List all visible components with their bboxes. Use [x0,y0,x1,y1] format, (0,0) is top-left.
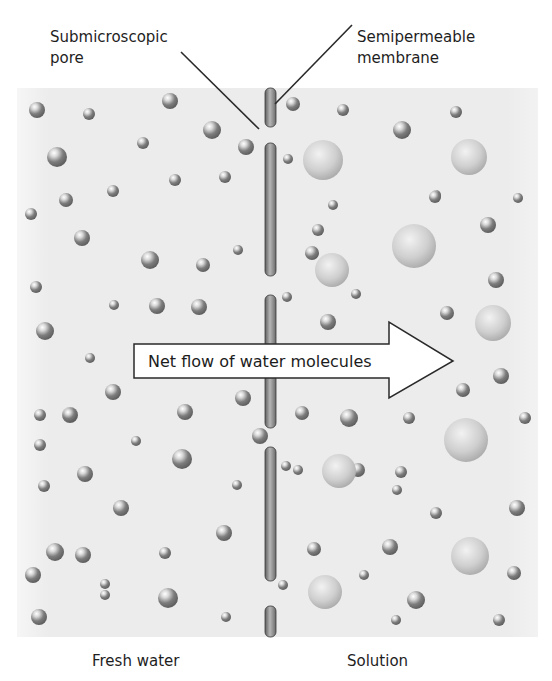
water-molecule [393,121,411,139]
water-molecule [34,439,46,451]
fresh-water-label: Fresh water [92,652,179,670]
water-molecule [38,480,50,492]
water-molecule [100,579,110,589]
water-molecule [307,542,321,556]
water-molecule [105,384,121,400]
water-molecule [109,300,119,310]
water-molecule [25,208,37,220]
solute-molecule [303,140,343,180]
water-molecule [407,591,425,609]
solute-molecule [451,139,487,175]
water-molecule [46,543,64,561]
solute-molecule [308,575,342,609]
water-molecule [131,436,141,446]
water-molecule [305,246,319,260]
water-molecule [232,480,242,490]
water-molecule [159,547,171,559]
water-molecule [278,580,288,590]
water-molecule [513,193,523,203]
water-molecule [293,465,303,475]
water-molecule [221,612,231,622]
water-molecule [430,507,442,519]
water-molecule [137,137,149,149]
water-molecule [47,147,67,167]
osmosis-diagram: Net flow of water molecules [0,0,552,681]
water-molecule [480,217,496,233]
water-molecule [216,525,232,541]
solution-label: Solution [347,652,408,670]
arrow-label: Net flow of water molecules [148,352,372,371]
water-molecule [141,251,159,269]
water-molecule [403,412,415,424]
water-molecule [177,404,193,420]
water-molecule [359,570,369,580]
water-molecule [63,408,77,422]
solute-molecule [451,537,489,575]
water-molecule [282,292,292,302]
water-molecule [328,200,338,210]
solute-molecule [315,253,349,287]
solute-molecule [322,454,356,488]
water-molecule [162,93,178,109]
net-flow-arrow: Net flow of water molecules [134,322,453,398]
water-molecule [36,322,54,340]
water-molecule [493,368,509,384]
solute-molecule [444,418,488,462]
water-molecule [100,590,110,600]
water-molecule [31,609,47,625]
solute-molecule [392,224,436,268]
water-molecule [233,245,243,255]
water-molecule [450,106,462,118]
water-molecule [158,588,178,608]
membrane-leader-line [275,25,352,104]
membrane-segment [265,88,276,127]
water-molecule [196,258,210,272]
water-molecule [382,539,398,555]
water-molecule [113,500,129,516]
water-molecule [509,500,525,516]
water-molecule [75,547,91,563]
water-molecule [169,174,181,186]
water-molecule [235,390,251,406]
water-molecule [85,353,95,363]
water-molecule [392,485,402,495]
water-molecule [283,154,293,164]
water-molecule [238,139,254,155]
water-molecule [295,406,309,420]
water-molecule [391,615,401,625]
water-molecule [488,272,504,288]
water-molecule [493,614,505,626]
water-molecule [149,298,165,314]
water-molecule [440,306,454,320]
water-molecule [29,102,45,118]
water-molecule [281,461,291,471]
water-molecule [30,281,42,293]
water-molecule [83,108,95,120]
water-molecule [340,409,358,427]
water-molecule [74,230,90,246]
water-molecule [351,289,361,299]
pore-leader-line [181,52,259,129]
membrane-segment [265,143,276,276]
water-molecule [25,567,41,583]
water-molecule [320,314,336,330]
water-molecule [219,171,231,183]
membrane-segment [265,606,276,637]
solute-molecule [475,305,511,341]
water-molecule [59,193,73,207]
water-molecule [77,466,93,482]
water-molecule [429,191,441,203]
water-molecule [395,466,407,478]
water-molecule [337,104,349,116]
water-molecule [519,412,531,424]
water-molecule [456,383,470,397]
water-molecule [286,97,300,111]
water-molecule [34,409,46,421]
water-molecule [191,299,207,315]
water-molecule [172,449,192,469]
water-molecule [252,428,268,444]
water-molecule [312,224,324,236]
water-molecule [507,566,521,580]
membrane-segment [265,447,276,581]
water-molecule [203,121,221,139]
